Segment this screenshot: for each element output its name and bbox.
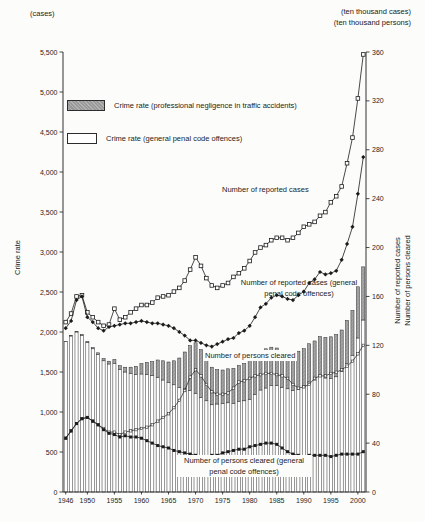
marker-filled-square <box>324 454 327 457</box>
marker-small-open-square <box>286 377 288 379</box>
marker-open-square <box>351 136 355 140</box>
marker-open-square <box>210 284 214 288</box>
marker-small-open-square <box>254 375 256 377</box>
marker-small-open-square <box>303 386 305 388</box>
marker-open-square <box>286 238 290 242</box>
left-axis-tick-label: 3,000 <box>40 249 58 256</box>
bar-segment-traffic <box>351 310 354 355</box>
marker-small-open-square <box>297 387 299 389</box>
marker-filled-square <box>221 451 224 454</box>
marker-open-square <box>134 307 138 311</box>
marker-open-square <box>113 307 117 311</box>
marker-small-open-square <box>340 369 342 371</box>
bar-segment-traffic <box>172 361 175 385</box>
marker-small-open-square <box>129 430 131 432</box>
bar-segment-general <box>107 364 110 492</box>
series-line <box>66 157 364 347</box>
marker-filled-square <box>275 443 278 446</box>
bar-segment-traffic <box>178 358 181 388</box>
marker-filled-square <box>75 422 78 425</box>
marker-filled-diamond <box>145 320 149 324</box>
marker-open-square <box>102 324 106 328</box>
marker-open-square <box>264 243 268 247</box>
marker-open-square <box>226 281 230 285</box>
bar-segment-general <box>199 398 202 492</box>
bar-segment-general <box>151 376 154 492</box>
marker-filled-square <box>329 455 332 458</box>
x-axis-tick-label: 1946 <box>58 497 74 504</box>
crime-statistics-chart: (cases) (ten thousand cases) (ten thousa… <box>0 0 425 522</box>
bar-segment-traffic <box>151 362 154 376</box>
right-axis-tick-label: 160 <box>372 293 384 300</box>
marker-open-square <box>275 236 279 240</box>
bar-segment-general <box>313 380 316 492</box>
bar-segment-traffic <box>210 367 213 405</box>
marker-filled-diamond <box>123 321 127 325</box>
marker-small-open-square <box>135 428 137 430</box>
marker-open-square <box>167 293 171 297</box>
marker-open-square <box>302 225 306 229</box>
left-axis-tick-label: 5,000 <box>40 89 58 96</box>
left-axis-tick-label: 4,000 <box>40 169 58 176</box>
x-axis-tick-label: 1975 <box>215 497 231 504</box>
x-axis-tick-label: 1990 <box>296 497 312 504</box>
bar-segment-general <box>102 361 105 492</box>
marker-small-open-square <box>313 377 315 379</box>
left-axis-tick-label: 3,500 <box>40 209 58 216</box>
marker-filled-square <box>270 442 273 445</box>
x-axis-tick-label: 1970 <box>188 497 204 504</box>
bar-segment-general <box>226 403 229 492</box>
bar-segment-general <box>351 355 354 492</box>
marker-open-square <box>242 267 246 271</box>
bar-segment-general <box>70 336 73 492</box>
bar-segment-general <box>64 342 67 492</box>
marker-filled-diamond <box>134 320 138 324</box>
marker-open-square <box>329 201 333 205</box>
marker-open-square <box>188 268 192 272</box>
marker-open-square <box>340 185 344 189</box>
marker-small-open-square <box>162 416 164 418</box>
right-axis-tick-label: 240 <box>372 195 384 202</box>
marker-open-square <box>172 290 176 294</box>
bar-segment-traffic <box>189 346 192 391</box>
legend-item-traffic-crime-rate: Crime rate (professional negligence in t… <box>67 99 297 111</box>
bar-segment-traffic <box>216 370 219 404</box>
marker-small-open-square <box>178 399 180 401</box>
x-axis-tick-label: 1955 <box>107 497 123 504</box>
marker-open-square <box>156 296 160 300</box>
marker-filled-square <box>362 450 365 453</box>
marker-filled-square <box>118 436 121 439</box>
marker-small-open-square <box>319 375 321 377</box>
bar-segment-general <box>216 404 219 492</box>
bar-segment-traffic <box>205 358 208 400</box>
x-axis-tick-label: 1995 <box>323 497 339 504</box>
marker-small-open-square <box>281 375 283 377</box>
marker-open-square <box>150 301 154 305</box>
marker-filled-diamond <box>340 258 344 262</box>
marker-filled-square <box>113 433 116 436</box>
marker-filled-square <box>254 444 257 447</box>
marker-small-open-square <box>216 393 218 395</box>
marker-filled-square <box>91 420 94 423</box>
marker-filled-diamond <box>334 269 338 273</box>
marker-small-open-square <box>211 391 213 393</box>
marker-open-square <box>75 295 79 299</box>
marker-open-square <box>96 320 100 324</box>
marker-open-square <box>145 303 149 307</box>
bar-segment-traffic <box>313 341 316 380</box>
bar-segment-general <box>80 335 83 492</box>
marker-filled-diamond <box>226 337 230 341</box>
marker-filled-diamond <box>129 321 133 325</box>
bar-segment-general <box>318 376 321 492</box>
marker-filled-square <box>351 453 354 456</box>
marker-small-open-square <box>362 344 364 346</box>
marker-open-square <box>345 161 349 165</box>
marker-filled-square <box>135 436 138 439</box>
marker-open-square <box>215 286 219 290</box>
legend-item-general-crime-rate: Crime rate (general penal code offences) <box>67 132 242 144</box>
marker-filled-diamond <box>323 272 327 276</box>
bar-segment-general <box>340 372 343 492</box>
right-axis-tick-label: 360 <box>372 49 384 56</box>
bar-segment-general <box>156 377 159 492</box>
marker-filled-square <box>340 453 343 456</box>
